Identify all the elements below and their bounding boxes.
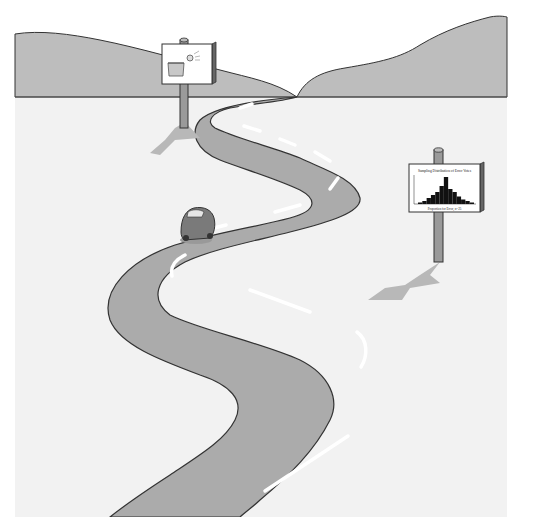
histogram-bar (457, 197, 461, 205)
histogram-title: Sampling Distribution of Error Votes (418, 169, 472, 173)
histogram-bar (435, 192, 439, 204)
road-illustration: Sampling Distribution of Error Votes Pro… (0, 0, 552, 517)
histogram-bar (444, 177, 448, 204)
right-hill (297, 16, 507, 97)
histogram-bar (427, 198, 431, 204)
left-sign (162, 42, 216, 84)
histogram-bar (465, 201, 469, 204)
histogram-bar (422, 201, 426, 204)
right-sign: Sampling Distribution of Error Votes Pro… (409, 162, 484, 212)
histogram-bar (448, 189, 452, 204)
histogram-bar (461, 200, 465, 205)
histogram-bar (452, 192, 456, 204)
left-hill (15, 32, 297, 97)
histogram-bar (431, 195, 435, 204)
histogram-bar (440, 186, 444, 204)
